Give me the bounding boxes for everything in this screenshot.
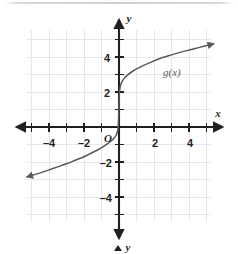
bottom-y-marker: y [114,241,131,253]
bottom-y-marker-label: y [124,241,131,253]
figure-container: –4 –2 2 4 4 2 –2 –4 O x y g(x) y [0,0,238,254]
y-tick-label-4: 4 [104,52,111,64]
y-axis-label: y [125,12,132,24]
x-tick-label-neg2: –2 [78,137,90,149]
y-tick-label-neg2: –2 [100,157,112,169]
x-tick-label-neg4: –4 [43,137,56,149]
y-tick-label-2: 2 [104,87,110,99]
x-tick-label-4: 4 [187,137,194,149]
curve-g-of-x [27,44,213,177]
axis-lines [17,20,222,238]
coordinate-plane: –4 –2 2 4 4 2 –2 –4 O x y g(x) y [0,0,238,254]
curve-label-g-of-x: g(x) [163,66,181,79]
origin-label: O [104,132,112,144]
x-axis-label: x [214,107,221,119]
y-tick-label-neg4: –4 [100,192,113,204]
x-tick-label-2: 2 [152,137,158,149]
